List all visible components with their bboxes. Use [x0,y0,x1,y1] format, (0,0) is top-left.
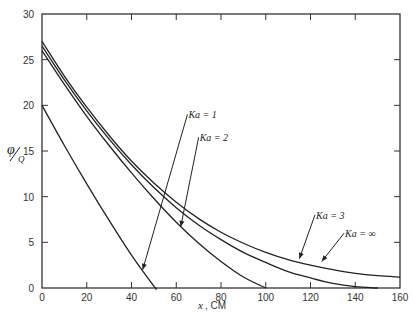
x-axis-title: x , CM [197,299,226,311]
x-tick-label: 40 [126,292,138,303]
x-tick-label: 0 [39,292,45,303]
series-line [42,46,378,288]
arrowhead-icon [142,263,147,269]
x-tick-label: 20 [81,292,93,303]
annotation-arrow [143,114,188,269]
plot-frame [42,14,400,288]
x-tick-label: 60 [171,292,183,303]
plot-border [42,14,400,288]
y-tick-label: 0 [28,283,34,294]
series-line [42,51,266,288]
y-tick-label: 20 [23,100,35,111]
x-tick-label: 160 [392,292,409,303]
y-tick-label: 10 [23,192,35,203]
annotation-label: Ka = ∞ [344,228,376,239]
series-line [42,41,400,277]
x-tick-label: 100 [257,292,274,303]
annotation-label: Ka = 3 [315,210,344,221]
x-tick-label: 120 [302,292,319,303]
y-tick-label: 30 [23,9,35,20]
y-tick-label: 25 [23,55,35,66]
annotation-label: Ka = 2 [199,132,228,143]
x-tick-label: 140 [347,292,364,303]
x-axis-var: x [197,299,203,311]
x-axis-unit: , CM [205,300,226,311]
chart: 020406080100120140160051015202530 Ka = 1… [0,0,413,319]
arrowhead-icon [299,252,304,258]
y-axis-denominator: Q [18,154,25,164]
annotation-label: Ka = 1 [187,109,216,120]
annotations: Ka = 1Ka = 2Ka = 3Ka = ∞ [142,109,376,269]
y-tick-label: 5 [28,237,34,248]
data-series [42,41,400,289]
y-axis-numerator: φ [7,142,15,157]
y-tick-label: 15 [23,146,35,157]
annotation-arrow [181,137,199,227]
axis-ticks: 020406080100120140160051015202530 [23,9,409,303]
annotation-arrow [299,215,315,259]
